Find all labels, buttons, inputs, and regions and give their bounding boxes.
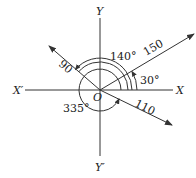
- x-pos-label: X: [175, 84, 185, 97]
- magnitude-label-90: 90: [56, 57, 75, 76]
- magnitude-label-110: 110: [133, 97, 158, 118]
- magnitude-label-150: 150: [141, 37, 166, 59]
- angle-label-30: 30°: [140, 74, 160, 87]
- origin-label: O: [93, 91, 102, 104]
- angle-arc-30: [132, 72, 137, 91]
- angle-label-140: 140°: [110, 50, 137, 63]
- y-neg-label: Y′: [95, 161, 105, 174]
- angle-label-335: 335°: [63, 102, 90, 115]
- x-neg-label: X′: [12, 84, 24, 97]
- y-pos-label: Y: [96, 5, 105, 18]
- vector-90: [49, 46, 100, 90]
- vector-diagram: Y Y′ X′ X O 150 30° 90 140° 110 335°: [0, 0, 196, 178]
